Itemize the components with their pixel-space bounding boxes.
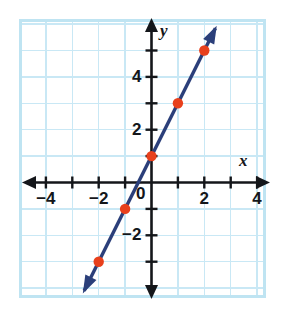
data-point	[94, 257, 104, 267]
y-axis-label: y	[160, 22, 168, 39]
origin-tick-label: 0	[136, 185, 145, 202]
y-tick-label: 2	[100, 121, 142, 138]
y-tick-label: −2	[100, 226, 142, 243]
x-tick-label: −4	[26, 190, 66, 207]
data-point	[173, 98, 183, 108]
data-point	[199, 45, 209, 55]
x-tick-label: −2	[79, 190, 119, 207]
coordinate-plane-figure: x y 0 −4−224−224	[0, 0, 286, 309]
data-point	[120, 204, 130, 214]
data-point	[146, 151, 156, 161]
y-tick-label: 4	[100, 68, 142, 85]
x-tick-label: 2	[184, 190, 224, 207]
x-tick-label: 4	[237, 190, 277, 207]
x-axis-label: x	[239, 152, 248, 169]
